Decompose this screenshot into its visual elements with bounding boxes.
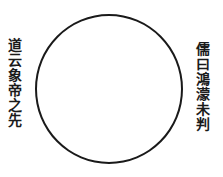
empty-circle — [35, 14, 183, 164]
right-vertical-caption: 儒曰鴻濛未判 — [195, 42, 209, 132]
left-vertical-caption: 道云象帝之先 — [7, 38, 21, 128]
